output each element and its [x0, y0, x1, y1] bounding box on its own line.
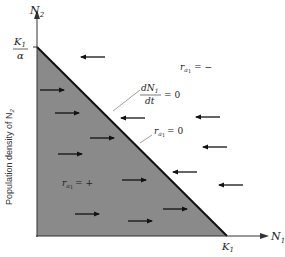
isocline-diagram: N2 K1 α Population density of N2 dN1 dt …: [0, 0, 285, 257]
isocline-label: dN1 dt = 0: [140, 83, 180, 106]
ra-zero-leader: [140, 135, 152, 143]
svg-text:dN1: dN1: [141, 83, 158, 94]
y-axis-title: Population density of N2: [4, 108, 15, 205]
ra-negative-label: ra1= −: [180, 62, 212, 74]
svg-text:dt: dt: [145, 96, 155, 106]
x-intercept-label: K1: [221, 241, 234, 254]
svg-text:α: α: [17, 50, 24, 61]
isocline-leader: [113, 90, 140, 111]
ra-zero-label: ra1= 0: [154, 126, 183, 138]
svg-text:K1: K1: [13, 36, 26, 49]
x-axis-arrow-icon: [260, 233, 269, 239]
y-intercept-label: K1 α: [13, 36, 28, 61]
svg-text:= 0: = 0: [164, 90, 180, 100]
x-axis-label: N1: [270, 230, 285, 245]
y-axis-label: N2: [29, 4, 45, 19]
